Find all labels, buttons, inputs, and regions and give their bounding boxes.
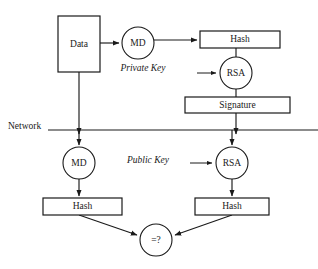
node-md-receiver: MD [63,147,95,179]
digital-signature-diagram: Network DataMDHashRSASignatureMDRSAHashH… [0,0,318,269]
private-key-label: Private Key [119,63,166,73]
key-labels-layer: Private KeyPublic Key [119,63,169,165]
node-rsa-sender: RSA [220,57,252,89]
node-data-box: Data [58,16,100,72]
diagram-canvas: Network DataMDHashRSASignatureMDRSAHashH… [0,0,318,269]
nodes-layer: DataMDHashRSASignatureMDRSAHashHash=? [43,16,290,256]
node-rsa-receiver: RSA [216,147,248,179]
node-hash-receiver-left: Hash [43,198,122,215]
node-label-rsa-receiver: RSA [223,158,242,168]
public-key-label: Public Key [126,155,170,165]
edge-hash-left-to-compare [79,215,137,235]
node-label-md-receiver: MD [71,158,86,168]
edge-hash-right-to-compare [175,215,232,235]
network-label: Network [8,121,41,131]
node-hash-sender: Hash [200,31,280,48]
node-hash-receiver-right: Hash [195,198,269,215]
node-label-md-sender: MD [130,38,145,48]
node-label-signature-box: Signature [219,100,255,110]
node-label-compare-node: =? [151,235,161,245]
node-label-hash-sender: Hash [230,34,250,44]
node-label-hash-receiver-left: Hash [73,201,93,211]
node-label-data-box: Data [70,39,89,49]
network-divider-layer: Network [8,121,318,131]
node-compare-node: =? [140,224,172,256]
node-md-sender: MD [122,27,154,59]
node-signature-box: Signature [185,97,290,113]
node-label-rsa-sender: RSA [227,68,246,78]
node-label-hash-receiver-right: Hash [222,201,242,211]
